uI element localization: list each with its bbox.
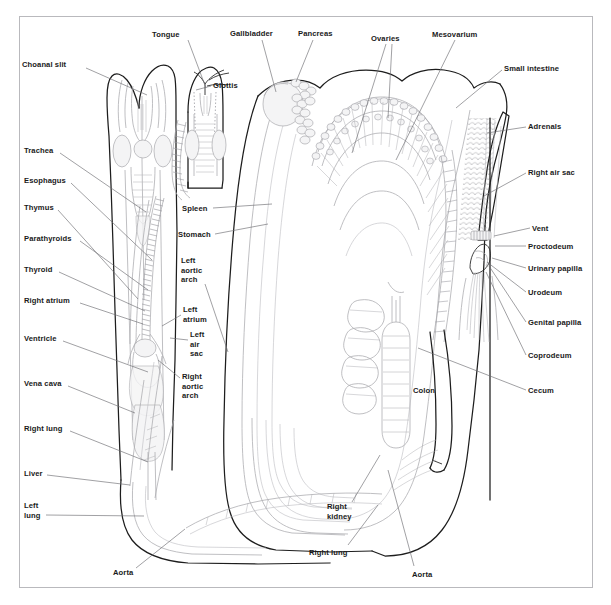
leader-mesovarium <box>396 40 455 160</box>
body-outline <box>224 69 507 556</box>
leader-trachea <box>60 153 146 212</box>
label-vent: Vent <box>532 224 548 234</box>
lower-loop-organs <box>130 356 438 534</box>
colon-organ <box>382 322 410 448</box>
right-air-sac-wedge <box>458 112 509 500</box>
label-ventricle: Ventricle <box>24 334 57 344</box>
cloaca-detail <box>459 231 498 342</box>
label-parathyroids: Parathyroids <box>24 234 72 244</box>
upper-viscera <box>263 79 316 144</box>
leader-aorta-right <box>388 470 414 566</box>
label-pancreas: Pancreas <box>298 29 333 39</box>
cecum-lobes <box>342 300 385 414</box>
anatomy-illustration: .k{fill:none;stroke:#1d1d1d;stroke-width… <box>0 0 611 605</box>
label-aorta-left: Aorta <box>113 568 133 578</box>
leader-ovaries-2 <box>388 44 392 118</box>
label-gallbladder: Gallbladder <box>230 29 273 39</box>
label-glottis: Glottis <box>213 81 238 91</box>
leader-left-aortic-arch <box>205 284 228 352</box>
label-tongue: Tongue <box>152 30 179 40</box>
small-intestine-coil <box>312 97 457 342</box>
label-spleen: Spleen <box>182 204 208 214</box>
leader-choanal-slit <box>86 68 147 95</box>
label-thyroid: Thyroid <box>24 265 53 275</box>
cecum-colon <box>342 282 452 472</box>
label-mesovarium: Mesovarium <box>432 30 477 40</box>
label-genital-papilla: Genital papilla <box>528 318 581 328</box>
label-coprodeum: Coprodeum <box>528 351 572 361</box>
leader-left-atrium <box>162 315 181 326</box>
leader-stomach <box>215 224 268 234</box>
label-right-aortic-arch: Right aortic arch <box>182 372 203 401</box>
leader-right-kidney <box>352 455 380 502</box>
label-esophagus: Esophagus <box>24 176 66 186</box>
leader-urinary-papilla <box>492 258 526 268</box>
figure-canvas: .k{fill:none;stroke:#1d1d1d;stroke-width… <box>0 0 611 605</box>
leader-spleen <box>213 204 272 208</box>
label-right-air-sac: Right air sac <box>528 168 575 178</box>
label-adrenals: Adrenals <box>528 122 561 132</box>
label-left-atrium: Left atrium <box>183 305 207 324</box>
label-left-lung: Left lung <box>24 501 40 520</box>
label-colon: Colon <box>413 386 435 396</box>
label-right-lung-2: Right lung <box>309 548 348 558</box>
label-ovaries: Ovaries <box>371 34 400 44</box>
label-thymus: Thymus <box>24 203 54 213</box>
label-small-intestine: Small intestine <box>504 64 559 74</box>
leader-liver <box>47 475 130 485</box>
label-right-atrium: Right atrium <box>24 296 70 306</box>
leader-glottis <box>196 86 211 90</box>
leader-pancreas <box>296 40 313 82</box>
label-trachea: Trachea <box>24 146 53 156</box>
leader-left-lung <box>46 515 144 516</box>
leader-vena-cava <box>68 386 135 413</box>
label-cecum: Cecum <box>528 386 554 396</box>
leader-tongue <box>188 40 206 88</box>
label-liver: Liver <box>24 469 43 479</box>
leader-left-air-sac <box>170 338 188 340</box>
label-proctodeum: Proctodeum <box>528 242 573 252</box>
label-aorta-right: Aorta <box>412 570 432 580</box>
label-urinary-papilla: Urinary papilla <box>528 264 582 274</box>
leader-thymus <box>58 210 138 299</box>
leader-gallbladder <box>262 40 276 92</box>
label-right-lung: Right lung <box>24 424 63 434</box>
label-choanal-slit: Choanal slit <box>22 60 66 70</box>
label-left-air-sac: Left air sac <box>190 330 204 359</box>
leader-vent <box>494 228 530 236</box>
label-vena-cava: Vena cava <box>24 379 62 389</box>
label-left-aortic-arch: Left aortic arch <box>181 256 202 285</box>
label-right-kidney: Right kidney <box>327 502 352 521</box>
label-urodeum: Urodeum <box>528 288 562 298</box>
label-stomach: Stomach <box>178 230 211 240</box>
head-left-palate <box>107 65 177 500</box>
